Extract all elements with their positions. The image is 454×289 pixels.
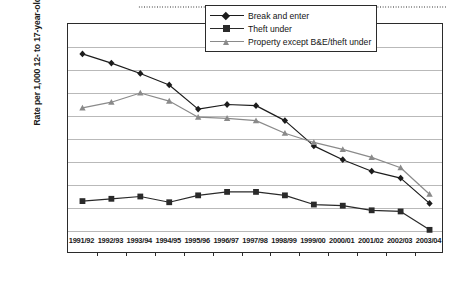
- data-point-marker: [224, 189, 230, 195]
- data-point-marker: [398, 209, 404, 215]
- data-point-marker: [137, 194, 143, 200]
- data-point-marker: [369, 168, 375, 175]
- series-lines: [68, 24, 444, 254]
- data-point-marker: [108, 60, 114, 67]
- data-point-marker: [137, 90, 143, 96]
- data-point-marker: [282, 192, 288, 198]
- legend-marker-diamond-icon: [210, 9, 244, 22]
- data-point-marker: [166, 199, 172, 205]
- data-point-marker: [224, 101, 230, 108]
- y-axis-title: Rate per 1,000 12- to 17-year-olds: [32, 0, 46, 154]
- legend-symbol: [223, 25, 230, 32]
- data-point-marker: [195, 192, 201, 198]
- series-line: [82, 192, 429, 230]
- legend-marker-triangle-icon: [210, 35, 244, 48]
- legend-item-3: Property except B&E/theft under: [210, 35, 371, 48]
- legend-label: Property except B&E/theft under: [244, 37, 371, 47]
- data-point-marker: [282, 130, 288, 136]
- data-point-marker: [253, 189, 259, 195]
- data-point-marker: [340, 156, 346, 163]
- data-point-marker: [137, 70, 143, 77]
- legend-item-1: Break and enter: [210, 9, 371, 22]
- plot-area: 2.001.801.601.401.201.000.800.600.400.20…: [67, 23, 443, 253]
- series-2: [80, 189, 433, 233]
- data-point-marker: [108, 196, 114, 202]
- legend-label: Theft under: [244, 24, 292, 34]
- data-point-marker: [79, 51, 85, 58]
- data-point-marker: [427, 227, 433, 233]
- x-axis-tick-label: 2003/04: [406, 236, 452, 245]
- chart-legend: Break and enterTheft underProperty excep…: [205, 5, 377, 52]
- legend-symbol: [223, 39, 229, 45]
- data-point-marker: [340, 203, 346, 209]
- chart-figure: Rate per 1,000 12- to 17-year-olds 2.001…: [0, 0, 454, 289]
- legend-symbol: [222, 12, 230, 20]
- legend-item-2: Theft under: [210, 22, 371, 35]
- series-line: [82, 54, 429, 204]
- legend-marker-square-icon: [210, 22, 244, 35]
- data-point-marker: [311, 202, 317, 208]
- legend-label: Break and enter: [244, 11, 309, 21]
- series-1: [79, 51, 432, 207]
- data-point-marker: [369, 207, 375, 213]
- data-point-marker: [253, 102, 259, 109]
- data-point-marker: [80, 198, 86, 204]
